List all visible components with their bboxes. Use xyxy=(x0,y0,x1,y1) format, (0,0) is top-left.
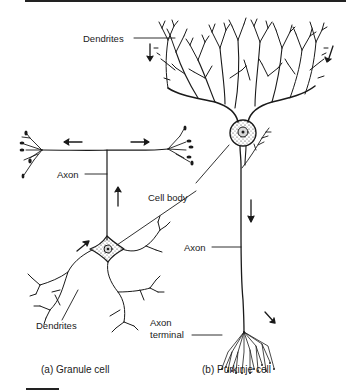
arrow-terminal xyxy=(265,312,275,323)
arrow-up-right-dendrites xyxy=(77,241,89,251)
leader-granule-dendrites xyxy=(62,290,78,320)
label-purkinje-dendrites: Dendrites xyxy=(83,33,124,44)
caption-purkinje-cell: (b) Purkinje cell xyxy=(202,364,271,376)
caption-granule-cell: (a) Granule cell xyxy=(41,364,109,376)
granule-dendrites xyxy=(28,216,170,332)
label-granule-axon: Axon xyxy=(57,169,79,180)
granule-parallel-fiber xyxy=(42,149,168,150)
arrow-down-axon xyxy=(248,200,254,222)
arrow-right-parallel-fiber xyxy=(131,139,149,145)
neuron-diagram: Dendrites Axon Cell body Axon Dendrites … xyxy=(0,0,352,390)
label-axon-terminal-line2: terminal xyxy=(150,329,184,340)
arrow-down-left-dendrites xyxy=(147,44,153,61)
arrow-left-parallel-fiber xyxy=(64,139,82,145)
label-purkinje-axon: Axon xyxy=(184,242,206,253)
label-cell-body: Cell body xyxy=(148,192,188,203)
leader-cell-body-purkinje xyxy=(196,145,229,183)
label-axon-terminal-line1: Axon xyxy=(150,317,172,328)
arrow-up-axon xyxy=(115,187,121,206)
purkinje-dendritic-tree xyxy=(154,18,328,122)
label-granule-dendrites: Dendrites xyxy=(36,320,77,331)
